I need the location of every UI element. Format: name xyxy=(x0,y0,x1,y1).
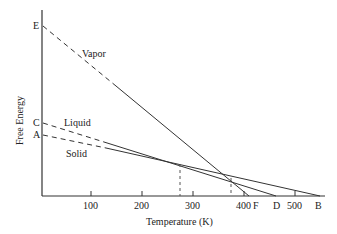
x-tick-label-400: 400 xyxy=(236,200,251,211)
solid-line xyxy=(106,148,320,196)
x-tick-label-300: 300 xyxy=(185,200,200,211)
point-label-A: A xyxy=(33,129,41,140)
solid-line-dashed xyxy=(43,135,106,148)
series-label-solid: Solid xyxy=(66,148,87,159)
point-label-C: C xyxy=(33,117,40,128)
series-label-vapor: Vapor xyxy=(82,48,107,59)
x-tick-label-100: 100 xyxy=(83,200,98,211)
x-axis-title: Temperature (K) xyxy=(146,216,213,228)
free-energy-chart: E C A Vapor Liquid Solid 100 200 300 400… xyxy=(0,0,337,234)
y-axis-title: Free Energy xyxy=(14,96,25,145)
x-tick-label-200: 200 xyxy=(134,200,149,211)
point-label-D: D xyxy=(273,200,280,211)
vapor-line xyxy=(116,86,249,196)
x-tick-label-500: 500 xyxy=(287,200,302,211)
point-label-F: F xyxy=(253,200,259,211)
liquid-line xyxy=(104,142,276,196)
point-label-B: B xyxy=(315,200,322,211)
point-label-E: E xyxy=(33,20,39,31)
series-label-liquid: Liquid xyxy=(64,117,91,128)
